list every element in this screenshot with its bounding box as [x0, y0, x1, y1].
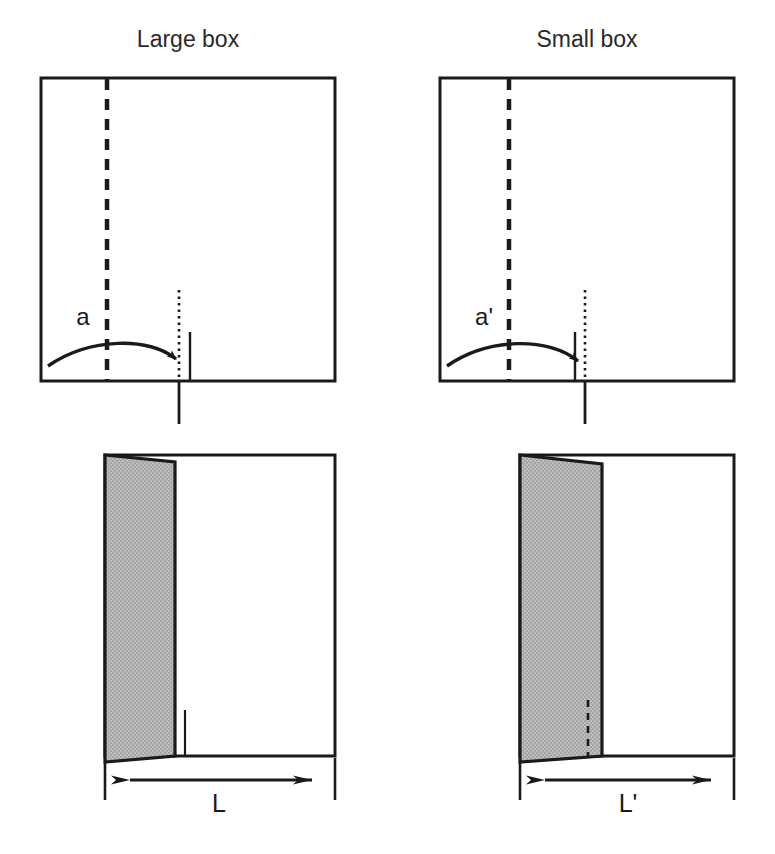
large-box-fold-arrow	[48, 343, 176, 366]
small-box-angle-label: a'	[475, 303, 493, 330]
panel-top-right-small-box: Small box a'	[440, 26, 734, 424]
figure-root: Large box a Small box a'	[0, 0, 775, 854]
panel-top-left-large-box: Large box a	[41, 26, 335, 424]
panel-bottom-left-large-side: L	[105, 455, 335, 817]
panel-bottom-right-small-side: L'	[520, 455, 734, 817]
small-length-label: L'	[619, 789, 638, 817]
large-side-folded-flap	[105, 455, 175, 762]
large-length-label: L	[212, 789, 226, 817]
small-box-fold-arrow	[447, 344, 578, 366]
large-box-outline	[41, 78, 335, 381]
small-box-outline	[440, 78, 734, 381]
box-fold-diagram: Large box a Small box a'	[0, 0, 775, 854]
title-large-box: Large box	[137, 26, 240, 52]
small-side-folded-flap	[520, 455, 602, 762]
large-box-angle-label: a	[76, 303, 90, 330]
title-small-box: Small box	[537, 26, 638, 52]
